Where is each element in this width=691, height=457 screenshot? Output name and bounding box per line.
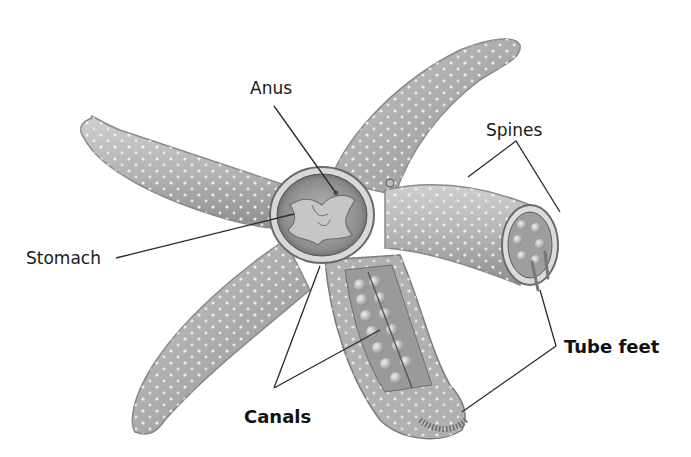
label-spines: Spines [486,122,542,139]
leader-tube-feet [462,290,556,412]
starfish-diagram [0,0,691,457]
label-tube-feet: Tube feet [564,338,659,356]
label-stomach: Stomach [26,250,101,267]
label-canals: Canals [244,408,311,426]
label-anus: Anus [250,80,292,97]
madreporite [386,179,394,187]
starfish-body [81,39,558,439]
